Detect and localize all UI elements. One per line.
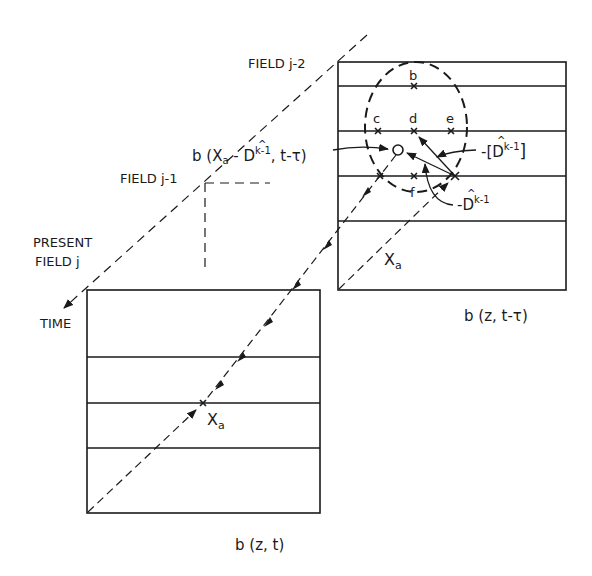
svg-text:^: ^ [467, 188, 475, 199]
vector-to-o [407, 153, 455, 176]
time-axis [64, 35, 367, 308]
trajectory-previous [339, 183, 448, 289]
point-o [393, 145, 403, 155]
projection-line [205, 155, 396, 401]
xa-lower-label: Xa [207, 410, 225, 432]
point-d-label: d [409, 111, 417, 126]
field-j1-label: FIELD j-1 [120, 171, 177, 186]
motion-estimation-diagram: b c d e f FIELD j-2 FIELD j-1 PRESENT FI… [0, 0, 592, 576]
trajectory-present [88, 410, 196, 512]
time-axis-label: TIME [39, 316, 71, 331]
previous-field-frame [338, 62, 566, 290]
pointer-neg-bracket [437, 150, 476, 157]
svg-text:b (Xa - Dk-1, t-τ): b (Xa - Dk-1, t-τ) [192, 145, 307, 166]
point-c-label: c [373, 111, 380, 126]
svg-text:^: ^ [258, 139, 266, 150]
present-field-label-line1: PRESENT [33, 235, 92, 250]
negated-displacement-label: -Dk-1 ^ [457, 188, 490, 214]
present-field-caption: b (z, t) [235, 536, 284, 554]
svg-text:^: ^ [497, 135, 505, 146]
pointer-b-displaced [333, 147, 388, 150]
displaced-sample-label: b (Xa - Dk-1, t-τ) ^ [192, 139, 307, 166]
field-j2-label: FIELD j-2 [248, 56, 305, 71]
point-b-label: b [409, 68, 417, 83]
point-f-label: f [410, 185, 415, 200]
previous-field-caption: b (z, t-τ) [464, 307, 528, 325]
present-field-label-line2: FIELD j [35, 254, 80, 269]
negated-bracket-displacement-label: -[Dk-1] ^ [481, 135, 526, 161]
field-j1-bracket [205, 183, 270, 268]
xa-upper-label: Xa [384, 250, 402, 272]
point-e-label: e [446, 111, 454, 126]
